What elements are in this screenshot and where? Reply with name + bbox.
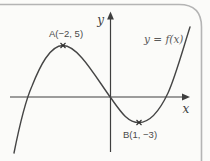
curve-equation-label: y = f(x) [143, 33, 183, 45]
y-axis-arrow-icon [107, 12, 114, 20]
point-a-label: A(−2, 5) [49, 28, 83, 39]
function-graph-figure: A(−2, 5) B(1, −3) y = f(x) y x [0, 0, 210, 161]
point-b-label: B(1, −3) [123, 129, 157, 140]
x-axis-arrow-icon [182, 94, 190, 101]
figure-svg: A(−2, 5) B(1, −3) y = f(x) y x [0, 0, 210, 161]
function-curve [14, 27, 190, 153]
y-axis-label: y [96, 13, 104, 27]
x-axis-label: x [183, 102, 190, 116]
